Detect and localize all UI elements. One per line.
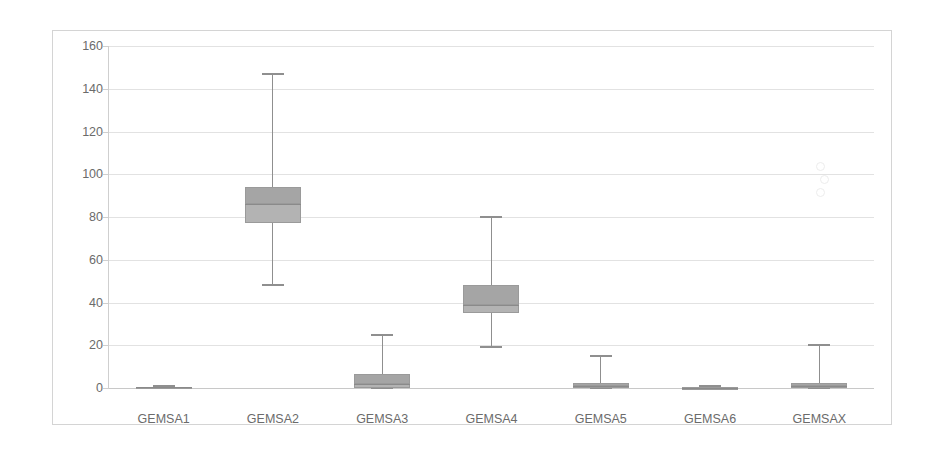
x-tick-label-gemsa6: GEMSA6 [655,412,764,426]
y-tick-mark-100 [103,174,109,175]
y-tick-mark-40 [103,303,109,304]
y-tick-mark-120 [103,132,109,133]
y-tick-mark-80 [103,217,109,218]
y-tick-label-40: 40 [59,296,103,309]
x-tick-label-gemsa3: GEMSA3 [328,412,437,426]
y-tick-label-120: 120 [59,125,103,138]
x-tick-label-gemsa2: GEMSA2 [218,412,327,426]
x-tick-label-gemsa1: GEMSA1 [109,412,218,426]
y-tick-label-160: 160 [59,40,103,53]
y-tick-mark-60 [103,260,109,261]
x-tick-label-gemsa5: GEMSA5 [546,412,655,426]
y-tick-label-20: 20 [59,339,103,352]
x-tick-label-gemsax: GEMSAX [765,412,874,426]
x-axis-tick-labels: GEMSA1GEMSA2GEMSA3GEMSA4GEMSA5GEMSA6GEMS… [109,46,874,441]
y-tick-label-0: 0 [59,382,103,395]
y-tick-label-100: 100 [59,168,103,181]
y-axis-tick-labels: 020406080100120140160 [53,46,103,388]
chart-frame: 020406080100120140160 GEMSA1GEMSA2GEMSA3… [52,30,892,425]
y-tick-mark-160 [103,46,109,47]
y-tick-mark-140 [103,89,109,90]
y-tick-mark-0 [103,388,109,389]
y-tick-mark-20 [103,345,109,346]
y-tick-label-80: 80 [59,211,103,224]
x-tick-label-gemsa4: GEMSA4 [437,412,546,426]
y-tick-label-60: 60 [59,254,103,267]
y-tick-label-140: 140 [59,83,103,96]
